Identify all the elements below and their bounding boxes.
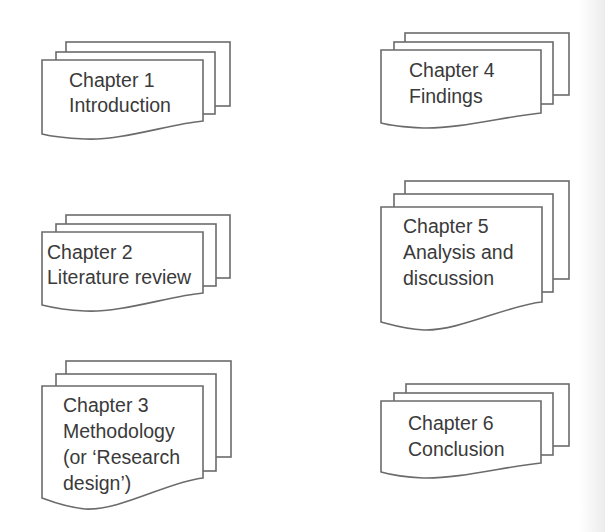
chapter-2-document-stack: Chapter 2 Literature review (42, 215, 230, 311)
chapter-structure-diagram: Chapter 1 Introduction Chapter 2 Literat… (0, 0, 605, 532)
chapter-6-document-stack: Chapter 6 Conclusion (381, 384, 569, 478)
chapter-4-document-stack: Chapter 4 Findings (381, 33, 569, 128)
chapter-1-document-stack: Chapter 1 Introduction (42, 42, 230, 139)
chapter-5-document-stack: Chapter 5 Analysis and discussion (381, 181, 569, 330)
chapter-3-document-stack: Chapter 3 Methodology (or ‘Research desi… (42, 361, 231, 509)
